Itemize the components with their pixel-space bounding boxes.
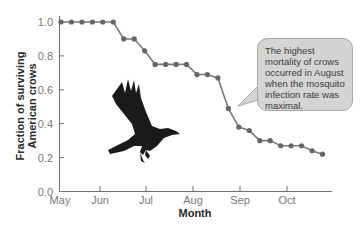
- data-point-marker: [320, 152, 325, 157]
- x-tick-label: Oct: [278, 194, 295, 206]
- data-point-marker: [132, 36, 137, 41]
- y-tick-label: 0.2: [38, 152, 53, 164]
- x-tick-label: May: [50, 194, 71, 206]
- y-tick-label: 0.4: [38, 118, 53, 130]
- y-axis-title: Fraction of surviving American crows: [14, 52, 38, 161]
- data-point-marker: [100, 19, 105, 24]
- callout-line: mortality of crows: [265, 56, 346, 67]
- data-point-marker: [194, 72, 199, 77]
- data-point-marker: [268, 138, 273, 143]
- x-tick-label: Jul: [139, 194, 153, 206]
- callout-pointer: [238, 86, 258, 106]
- y-tick-label: 1.0: [38, 16, 53, 28]
- y-tick-labels: 0.00.20.40.60.81.0: [38, 16, 53, 198]
- y-ticks: [60, 22, 65, 158]
- data-point-marker: [184, 62, 189, 67]
- data-point-marker: [173, 62, 178, 67]
- data-point-marker: [257, 138, 262, 143]
- x-ticks: [100, 186, 287, 192]
- data-point-marker: [236, 124, 241, 129]
- crow-image: [108, 79, 180, 163]
- data-point-marker: [58, 19, 63, 24]
- data-point-marker: [142, 48, 147, 53]
- data-point-marker: [278, 143, 283, 148]
- x-tick-label: Jun: [91, 194, 109, 206]
- data-point-marker: [247, 128, 252, 133]
- y-tick-label: 0.6: [38, 84, 53, 96]
- callout-line: infection rate was: [265, 89, 346, 100]
- data-point-marker: [111, 19, 116, 24]
- callout-line: The highest: [265, 45, 346, 56]
- data-point-marker: [121, 36, 126, 41]
- data-point-marker: [69, 19, 74, 24]
- y-axis-title-line2: American crows: [26, 64, 38, 149]
- survival-chart: 0.00.20.40.60.81.0 MayJunJulAugSepOct Mo…: [0, 0, 360, 231]
- x-tick-labels: MayJunJulAugSepOct: [50, 194, 296, 206]
- annotation-callout: The highest mortality of crows occurred …: [257, 38, 353, 111]
- callout-line: occurred in August: [265, 67, 346, 78]
- data-point-marker: [299, 143, 304, 148]
- data-point-marker: [163, 62, 168, 67]
- data-point-marker: [90, 19, 95, 24]
- y-axis-title-line1: Fraction of surviving: [14, 52, 26, 161]
- data-point-marker: [79, 19, 84, 24]
- data-point-marker: [205, 72, 210, 77]
- data-point-marker: [289, 143, 294, 148]
- data-point-marker: [226, 106, 231, 111]
- data-point-marker: [153, 62, 158, 67]
- data-point-marker: [309, 148, 314, 153]
- data-point-marker: [215, 75, 220, 80]
- x-tick-label: Sep: [230, 194, 250, 206]
- y-tick-label: 0.8: [38, 50, 53, 62]
- x-tick-label: Aug: [183, 194, 203, 206]
- callout-line: when the mosquito: [265, 78, 346, 89]
- x-axis-title: Month: [179, 207, 212, 219]
- callout-line: maximal.: [265, 100, 346, 111]
